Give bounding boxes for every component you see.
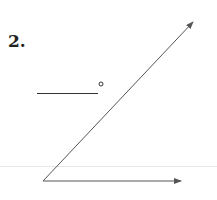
angle-diagram (0, 0, 217, 200)
ray-diagonal (43, 22, 193, 181)
degree-symbol (99, 82, 103, 86)
